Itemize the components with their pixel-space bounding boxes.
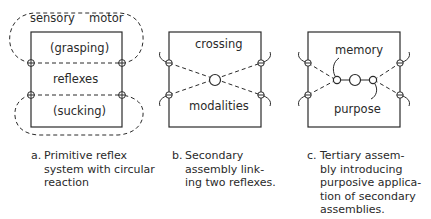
- panel-c-memory-node: [333, 76, 340, 83]
- panel-c-memory-label: memory: [335, 44, 383, 57]
- panel-c-caption-line: tion of secondary: [320, 190, 421, 204]
- panel-b-crossing-label: crossing: [195, 38, 243, 51]
- panel-b-modalities-label: modalities: [189, 100, 249, 113]
- panel-a-caption-letter: a.: [31, 149, 41, 163]
- panel-a-reflexes-label: reflexes: [53, 73, 98, 86]
- panel-a-grasping-label: (grasping): [50, 42, 109, 55]
- panel-c-caption-letter: c.: [307, 149, 317, 163]
- panel-c-purpose-pointer: [371, 84, 377, 99]
- panel-c-memory-pointer: [333, 58, 339, 76]
- panel-a-caption-line: system with circular: [44, 163, 155, 177]
- panel-b-caption-letter: b.: [172, 149, 182, 163]
- panel-b-caption-line: ing two reflexes.: [185, 176, 276, 190]
- panel-c-link-left-top: [308, 63, 336, 80]
- panel-c-center-node: [350, 75, 361, 86]
- panel-c-link-right-bottom: [374, 80, 400, 95]
- panel-a-sucking-label: (sucking): [53, 105, 106, 118]
- panel-c-caption-line: bly introducing: [320, 163, 421, 177]
- panel-c-caption-line: assemblies.: [320, 203, 421, 217]
- panel-c-link-left-bottom: [308, 80, 336, 95]
- panel-a-motor-label: motor: [89, 12, 124, 25]
- panel-c-caption-line: Tertiary assem-: [320, 149, 421, 163]
- panel-b-caption-line: Secondary: [185, 149, 276, 163]
- panel-a-caption-line: reaction: [44, 176, 155, 190]
- panel-c-link-right-top: [374, 63, 400, 80]
- panel-c-nodes: [305, 60, 403, 98]
- panel-a-caption-line: Primitive reflex: [44, 149, 155, 163]
- panel-c-purpose-node: [369, 76, 376, 83]
- panel-b-caption-line: assembly link-: [185, 163, 276, 177]
- panel-c-caption-line: purposive applica-: [320, 176, 421, 190]
- panel-b-nodes: [166, 60, 264, 98]
- panel-b-center-node: [210, 75, 221, 86]
- panel-c-purpose-label: purpose: [334, 103, 381, 116]
- panel-a-sensory-label: sensory: [30, 12, 75, 25]
